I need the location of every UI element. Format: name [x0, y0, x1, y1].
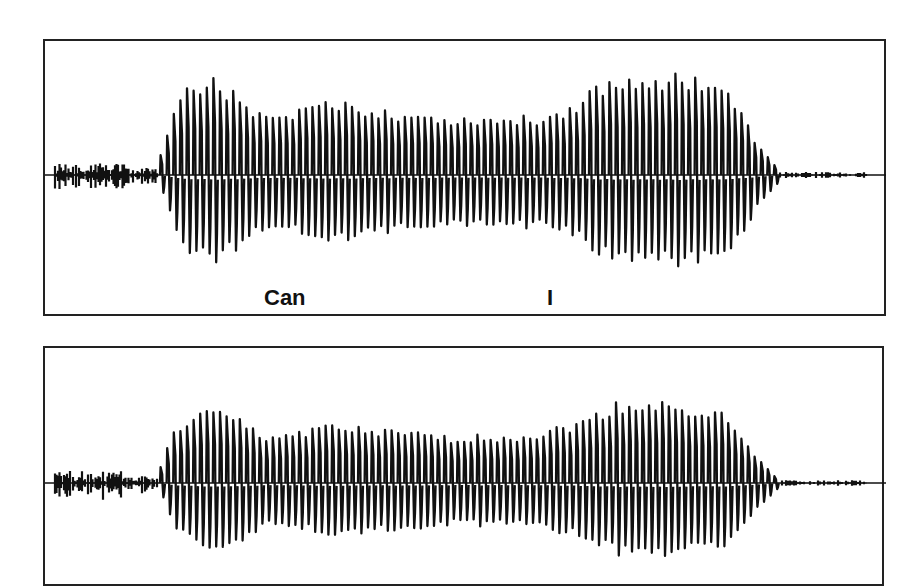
waveform-top — [45, 41, 888, 318]
word-label-i: I — [547, 287, 553, 309]
word-label-can: Can — [264, 287, 306, 309]
waveform-bottom — [45, 348, 886, 588]
waveform-panel-top: Can I — [43, 39, 886, 316]
waveform-panel-bottom — [43, 346, 884, 586]
